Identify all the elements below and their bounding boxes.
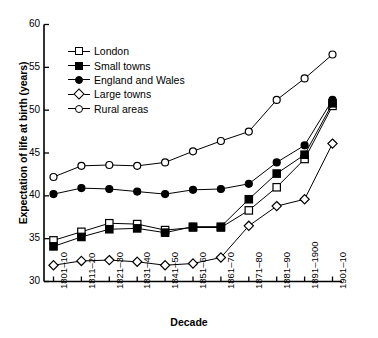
data-point-filled-circle bbox=[273, 159, 280, 166]
x-axis-label: Decade bbox=[0, 316, 378, 328]
legend-label: London bbox=[90, 45, 129, 57]
data-point-open-circle bbox=[50, 173, 57, 180]
data-point-open-circle bbox=[273, 96, 280, 103]
series-small-towns bbox=[50, 100, 336, 250]
data-point-open-circle bbox=[245, 128, 252, 135]
data-point-open-circle bbox=[78, 162, 85, 169]
data-point-filled-circle bbox=[50, 191, 57, 198]
legend-marker-open-square-icon bbox=[68, 45, 90, 57]
legend-marker-shape bbox=[73, 89, 84, 100]
data-point-filled-square bbox=[161, 229, 168, 236]
x-axis-tick-label: 1851–60 bbox=[197, 252, 208, 289]
legend-item-england-and-wales: England and Wales bbox=[68, 73, 185, 87]
y-axis-tick-label: 30 bbox=[18, 275, 40, 286]
x-axis-tick-label: 1801–10 bbox=[58, 252, 69, 289]
y-axis-label-container: Expectation of life at birth (years) bbox=[0, 0, 24, 290]
data-point-open-circle bbox=[134, 162, 141, 169]
data-point-open-diamond bbox=[272, 202, 281, 211]
series-line bbox=[54, 106, 333, 241]
x-axis-tick-label: 1891–1900 bbox=[309, 241, 320, 289]
chart-plot-area bbox=[0, 0, 378, 338]
x-axis-tick-label: 1901–10 bbox=[337, 252, 348, 289]
data-point-filled-square bbox=[189, 223, 196, 230]
y-axis-tick-label: 40 bbox=[18, 189, 40, 200]
data-point-open-diamond bbox=[77, 256, 86, 265]
data-point-open-diamond bbox=[328, 139, 337, 148]
data-point-open-circle bbox=[217, 138, 224, 145]
legend-label: Small towns bbox=[90, 60, 151, 72]
data-point-open-circle bbox=[301, 75, 308, 82]
legend-marker-shape bbox=[75, 105, 83, 113]
legend-item-london: London bbox=[68, 44, 185, 58]
legend-item-small-towns: Small towns bbox=[68, 58, 185, 72]
x-axis-tick-label: 1871–80 bbox=[253, 252, 264, 289]
x-axis-tick-label: 1821–30 bbox=[114, 252, 125, 289]
data-point-open-circle bbox=[162, 159, 169, 166]
data-point-open-diamond bbox=[105, 255, 114, 264]
x-axis-tick-label: 1841–50 bbox=[169, 252, 180, 289]
legend-marker-filled-square-icon bbox=[68, 60, 90, 72]
data-point-filled-circle bbox=[162, 191, 169, 198]
data-point-open-diamond bbox=[49, 261, 58, 270]
data-point-filled-square bbox=[245, 196, 252, 203]
legend-marker-open-circle-icon bbox=[68, 103, 90, 115]
x-axis-tick-label: 1861–70 bbox=[225, 252, 236, 289]
data-point-open-circle bbox=[329, 51, 336, 58]
data-point-filled-circle bbox=[134, 188, 141, 195]
data-point-filled-square bbox=[78, 233, 85, 240]
data-point-filled-circle bbox=[106, 185, 113, 192]
y-axis-tick-label: 50 bbox=[18, 104, 40, 115]
data-point-filled-square bbox=[301, 151, 308, 158]
data-point-filled-circle bbox=[245, 180, 252, 187]
data-point-open-square bbox=[245, 207, 252, 214]
data-point-filled-circle bbox=[78, 185, 85, 192]
data-point-filled-circle bbox=[190, 186, 197, 193]
data-point-filled-square bbox=[217, 223, 224, 230]
legend-label: Rural areas bbox=[90, 103, 148, 115]
legend-item-rural-areas: Rural areas bbox=[68, 102, 185, 116]
x-axis-tick-label: 1831–40 bbox=[141, 252, 152, 289]
y-axis-label: Expectation of life at birth (years) bbox=[17, 23, 29, 263]
chart-figure: Expectation of life at birth (years) Dec… bbox=[0, 0, 378, 338]
data-point-filled-circle bbox=[301, 142, 308, 149]
legend-marker-shape bbox=[75, 47, 83, 55]
data-point-open-square bbox=[273, 184, 280, 191]
legend-marker-open-diamond-icon bbox=[68, 88, 90, 100]
data-point-filled-square bbox=[50, 243, 57, 250]
legend-marker-filled-circle-icon bbox=[68, 74, 90, 86]
x-axis-tick-label: 1881–90 bbox=[281, 252, 292, 289]
data-point-filled-circle bbox=[217, 185, 224, 192]
data-point-filled-circle bbox=[329, 96, 336, 103]
legend-marker-shape bbox=[75, 62, 83, 70]
data-point-open-circle bbox=[190, 148, 197, 155]
x-axis-tick-label: 1811–20 bbox=[86, 252, 97, 288]
legend-marker-shape bbox=[75, 76, 83, 84]
chart-legend: LondonSmall townsEngland and WalesLarge … bbox=[68, 44, 185, 116]
data-point-open-circle bbox=[106, 161, 113, 168]
data-point-filled-square bbox=[273, 170, 280, 177]
y-axis-tick-label: 45 bbox=[18, 147, 40, 158]
y-axis-tick-label: 60 bbox=[18, 18, 40, 29]
legend-label: England and Wales bbox=[90, 74, 185, 86]
series-large-towns bbox=[49, 139, 337, 270]
legend-label: Large towns bbox=[90, 88, 151, 100]
data-point-filled-square bbox=[134, 225, 141, 232]
data-point-open-diamond bbox=[300, 195, 309, 204]
series-line bbox=[54, 144, 333, 266]
data-point-filled-square bbox=[106, 226, 113, 233]
y-axis-tick-label: 35 bbox=[18, 232, 40, 243]
legend-item-large-towns: Large towns bbox=[68, 87, 185, 101]
y-axis-tick-label: 55 bbox=[18, 61, 40, 72]
